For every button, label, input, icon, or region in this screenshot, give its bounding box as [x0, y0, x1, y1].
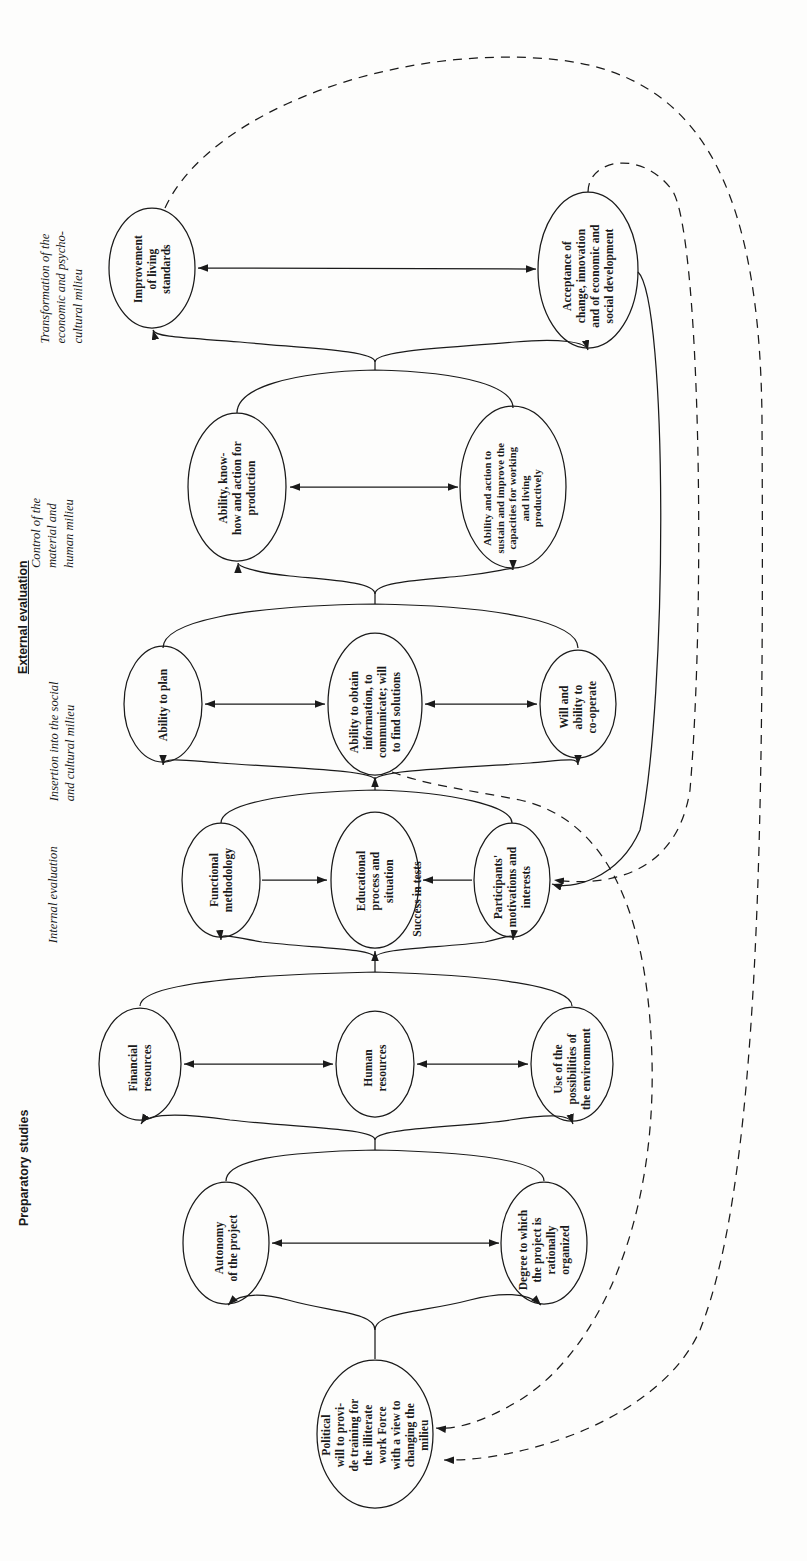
- node-ability-know-how-production[interactable]: [188, 413, 286, 561]
- edge-politicalwill-to-degree: [375, 1295, 541, 1330]
- node-degree-rationally-organized[interactable]: [501, 1182, 587, 1304]
- node-educational-process[interactable]: [331, 812, 419, 948]
- edge-politicalwill-to-autonomy: [228, 1295, 375, 1330]
- edge-internal-to-cooperate: [375, 760, 578, 780]
- node-political-will[interactable]: [317, 1360, 433, 1508]
- edge-improvement-acceptance: [198, 268, 536, 269]
- node-participants-motivations[interactable]: [474, 823, 550, 937]
- edge-control-to-improvement: [153, 330, 375, 362]
- node-functional-methodology[interactable]: [182, 823, 260, 937]
- edge-resources-trunk: [140, 972, 572, 1006]
- node-will-ability-to-cooperate[interactable]: [540, 650, 616, 758]
- edge-resources-to-functional: [221, 936, 375, 958]
- edge-acceptance-to-participants: [552, 272, 661, 886]
- node-ability-to-plan[interactable]: [124, 646, 202, 762]
- node-acceptance-of-change[interactable]: [538, 192, 638, 348]
- edge-insertion-to-sustain: [375, 569, 513, 594]
- node-autonomy-of-the-project[interactable]: [183, 1182, 269, 1304]
- edge-project-to-use: [375, 1116, 573, 1140]
- node-ability-to-obtain-information[interactable]: [328, 633, 422, 775]
- node-improvement-of-living-standards[interactable]: [109, 208, 195, 328]
- node-human-resources[interactable]: [336, 1011, 414, 1117]
- node-financial-resources[interactable]: [99, 1008, 181, 1120]
- edge-internal-to-plan: [163, 760, 375, 780]
- node-use-of-possibilities[interactable]: [531, 1007, 613, 1121]
- edge-project-to-financial: [141, 1115, 375, 1140]
- diagram-page: External evaluation Preparatory studies …: [0, 0, 807, 1561]
- edge-control-to-acceptance: [375, 340, 588, 362]
- edge-project-trunk: [226, 1150, 544, 1181]
- edge-insertion-to-knowhow: [238, 563, 375, 594]
- edge-control-trunk: [237, 370, 513, 413]
- node-ability-sustain-capacities[interactable]: [460, 406, 566, 568]
